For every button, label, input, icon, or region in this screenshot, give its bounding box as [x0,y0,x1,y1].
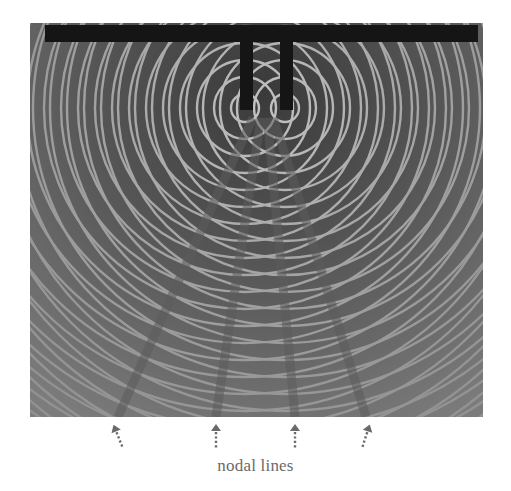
ripple-tank-photo [30,23,483,417]
figure-caption: nodal lines [0,456,511,476]
nodal-line-arrow-icon [356,422,377,449]
nodal-line-arrow-icon [209,424,223,448]
vibrating-bar [45,25,478,42]
nodal-line-arrow-icon [107,422,129,449]
dipper-left [240,38,253,110]
dipper-right [280,38,293,110]
nodal-line-arrow-icon [288,424,302,448]
